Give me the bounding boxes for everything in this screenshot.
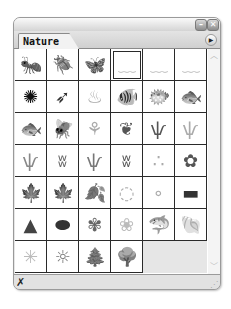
swatch-butterfly[interactable]: 🦋 bbox=[79, 49, 111, 81]
feather-icon: ➶ bbox=[55, 88, 70, 106]
swatch-panel: – ✕ Nature ▶ 🐜🪲🦋﹏﹏﹏✺➶♨🐠🐡🐟🐟🪰⚘❦ѱѱѱʬѱʬ∴✿🍁🍁🍂… bbox=[13, 17, 221, 290]
tab-row: Nature ▶ bbox=[14, 31, 220, 49]
minimize-button[interactable]: – bbox=[195, 19, 207, 31]
leaf-icon: 🍂 bbox=[84, 184, 106, 202]
cloud-wisp-2-icon: ﹏ bbox=[150, 56, 168, 74]
swatch-stone-long[interactable]: ▬ bbox=[175, 177, 207, 209]
swatch-grid: 🐜🪲🦋﹏﹏﹏✺➶♨🐠🐡🐟🐟🪰⚘❦ѱѱѱʬѱʬ∴✿🍁🍁🍂◌∘▬▲⬬✾❀🦈🐚✳☼🌲🌳 bbox=[15, 49, 208, 274]
scroll-up-icon[interactable]: ︿ bbox=[208, 51, 220, 61]
maple-leaf-light-icon: 🍁 bbox=[20, 184, 42, 202]
swatch-small-fish[interactable]: 🐟 bbox=[175, 81, 207, 113]
swatch-reed-plant[interactable]: ⚘ bbox=[79, 113, 111, 145]
stone-long-icon: ▬ bbox=[182, 184, 199, 202]
pine-trees-icon: 🌲 bbox=[84, 248, 106, 266]
swatch-pine-trees[interactable]: 🌲 bbox=[79, 241, 111, 273]
tree-grove-icon: 🌳 bbox=[116, 248, 138, 266]
swatch-flat-fish[interactable]: 🐡 bbox=[143, 81, 175, 113]
swatch-star-burst-light[interactable]: ✳ bbox=[15, 241, 47, 273]
swatch-cloud-wisp-2[interactable]: ﹏ bbox=[143, 49, 175, 81]
grass-blades-icon: ѱ bbox=[151, 120, 167, 138]
vertical-scrollbar[interactable]: ︿ ﹀ bbox=[208, 49, 220, 274]
swatch-spotted-fish[interactable]: 🐟 bbox=[15, 113, 47, 145]
small-fish-icon: 🐟 bbox=[180, 88, 202, 106]
ant-icon: 🐜 bbox=[20, 56, 42, 74]
swatch-ant[interactable]: 🐜 bbox=[15, 49, 47, 81]
swatch-cloud-wisp-3[interactable]: ﹏ bbox=[175, 49, 207, 81]
coral-icon: ❦ bbox=[119, 120, 134, 138]
swatch-maple-leaf-dark[interactable]: 🍁 bbox=[47, 177, 79, 209]
swatch-flower[interactable]: ✿ bbox=[175, 145, 207, 177]
shark-icon: 🦈 bbox=[148, 216, 170, 234]
swatch-sun-burst[interactable]: ☼ bbox=[47, 241, 79, 273]
butterfly-icon: 🦋 bbox=[84, 56, 106, 74]
resize-grip-icon[interactable]: ⋰ bbox=[210, 280, 218, 289]
star-burst-light-icon: ✳ bbox=[23, 248, 38, 266]
swatch-grass-blades[interactable]: ѱ bbox=[143, 113, 175, 145]
grass-dense-icon: ʬ bbox=[122, 152, 131, 170]
swatch-grass-strip[interactable]: ʬ bbox=[47, 145, 79, 177]
swatch-flower-faint[interactable]: ❀ bbox=[111, 209, 143, 241]
spotted-fish-icon: 🐟 bbox=[20, 120, 42, 138]
swatch-cloud-wisp-1[interactable]: ﹏ bbox=[111, 49, 143, 81]
grass-strip-icon: ʬ bbox=[58, 152, 67, 170]
close-button[interactable]: ✕ bbox=[207, 19, 219, 31]
swatch-grass-dense[interactable]: ʬ bbox=[111, 145, 143, 177]
fly-icon: 🪰 bbox=[52, 120, 74, 138]
swatch-shrub-dark[interactable]: ✺ bbox=[15, 81, 47, 113]
swatch-stone-small[interactable]: ◌ bbox=[111, 177, 143, 209]
swatch-shark[interactable]: 🦈 bbox=[143, 209, 175, 241]
swatch-tree-grove[interactable]: 🌳 bbox=[111, 241, 143, 273]
cloud-wisp-3-icon: ﹏ bbox=[182, 56, 200, 74]
panel-menu-button[interactable]: ▶ bbox=[205, 34, 217, 46]
swatch-pebbles[interactable]: ∴ bbox=[143, 145, 175, 177]
swatch-feather[interactable]: ➶ bbox=[47, 81, 79, 113]
swatch-maple-leaf-light[interactable]: 🍁 bbox=[15, 177, 47, 209]
stone-small-icon: ◌ bbox=[119, 184, 135, 202]
swatch-shell[interactable]: 🐚 bbox=[175, 209, 207, 241]
beetle-icon: 🪲 bbox=[52, 56, 74, 74]
shrub-dark-icon: ✺ bbox=[23, 88, 38, 106]
rock-oval-icon: ⬬ bbox=[55, 216, 70, 234]
flower-faint-icon: ❀ bbox=[119, 216, 134, 234]
empty-slot bbox=[143, 241, 175, 273]
grass-tuft-icon: ѱ bbox=[23, 152, 39, 170]
swatch-grass-thin[interactable]: ѱ bbox=[79, 145, 111, 177]
swatch-rock-oval[interactable]: ⬬ bbox=[47, 209, 79, 241]
pebble-tiny-icon: ∘ bbox=[153, 184, 164, 202]
cloud-wisp-1-icon: ﹏ bbox=[118, 56, 136, 74]
rock-mound-icon: ▲ bbox=[24, 216, 38, 234]
delete-swatch-icon[interactable]: ✗ bbox=[16, 276, 25, 289]
tab-nature[interactable]: Nature bbox=[18, 33, 70, 49]
swatch-grass-tuft[interactable]: ѱ bbox=[15, 145, 47, 177]
maple-leaf-dark-icon: 🍁 bbox=[52, 184, 74, 202]
swatch-rock-mound[interactable]: ▲ bbox=[15, 209, 47, 241]
pebbles-icon: ∴ bbox=[153, 152, 164, 170]
grass-thin-icon: ѱ bbox=[87, 152, 103, 170]
scroll-down-icon[interactable]: ﹀ bbox=[208, 262, 220, 272]
reed-plant-icon: ⚘ bbox=[86, 120, 102, 138]
swatch-flower-blossom[interactable]: ✾ bbox=[79, 209, 111, 241]
empty-slot bbox=[175, 241, 207, 273]
grass-flame-icon: ♨ bbox=[86, 88, 102, 106]
flat-fish-icon: 🐡 bbox=[148, 88, 170, 106]
swatch-tropical-fish[interactable]: 🐠 bbox=[111, 81, 143, 113]
flower-blossom-icon: ✾ bbox=[87, 216, 102, 234]
tropical-fish-icon: 🐠 bbox=[116, 88, 138, 106]
sun-burst-icon: ☼ bbox=[54, 248, 70, 266]
swatch-leaf[interactable]: 🍂 bbox=[79, 177, 111, 209]
swatch-grass-light[interactable]: ѱ bbox=[175, 113, 207, 145]
swatch-grass-flame[interactable]: ♨ bbox=[79, 81, 111, 113]
swatch-beetle[interactable]: 🪲 bbox=[47, 49, 79, 81]
status-bar: ✗ ⋰ bbox=[14, 274, 220, 290]
flower-icon: ✿ bbox=[183, 152, 198, 170]
swatch-coral[interactable]: ❦ bbox=[111, 113, 143, 145]
title-bar[interactable]: – ✕ bbox=[14, 18, 220, 31]
shell-icon: 🐚 bbox=[180, 216, 202, 234]
grass-light-icon: ѱ bbox=[183, 120, 199, 138]
swatch-pebble-tiny[interactable]: ∘ bbox=[143, 177, 175, 209]
swatch-fly[interactable]: 🪰 bbox=[47, 113, 79, 145]
